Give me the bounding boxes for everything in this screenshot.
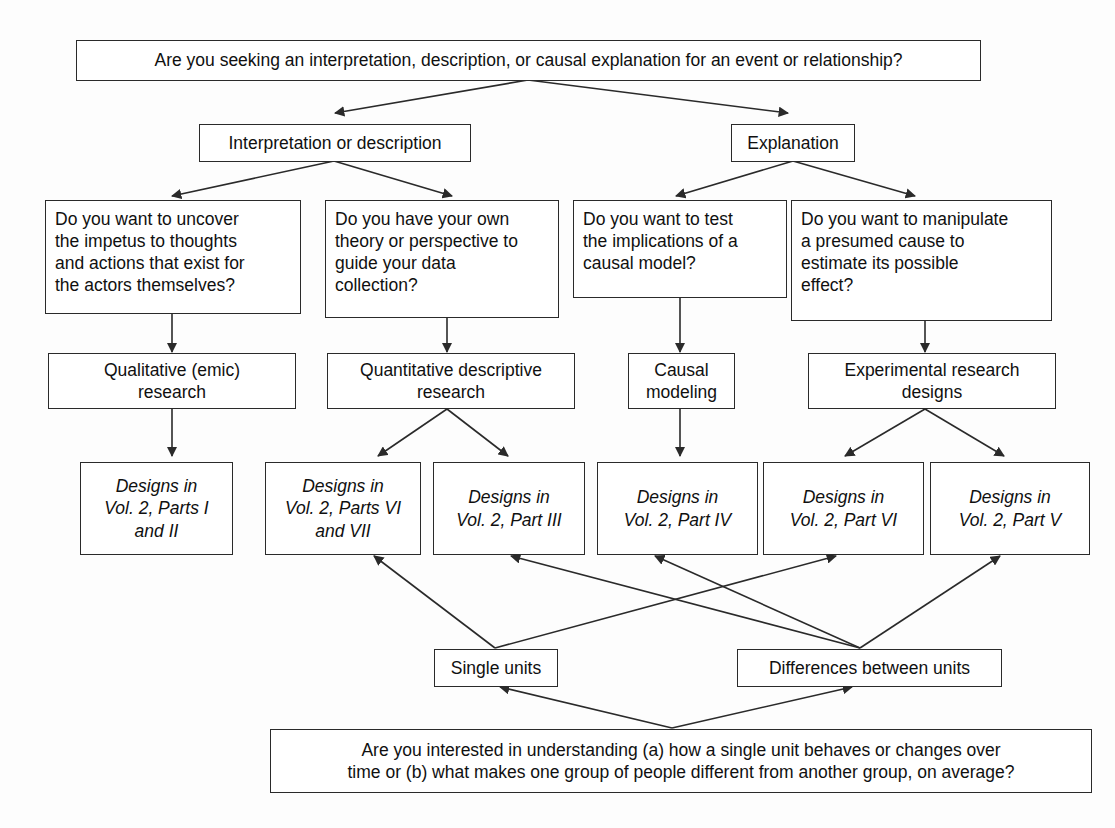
edge-root-to-explanation xyxy=(528,80,788,113)
edge-experimental-to-part-vi xyxy=(845,409,925,456)
node-design-part-iii-label: Designs inVol. 2, Part III xyxy=(440,486,578,530)
node-question-causal-model-label: Do you want to testthe implications of a… xyxy=(583,208,777,274)
node-interpretation-label: Interpretation or description xyxy=(206,132,464,154)
node-root-question-label: Are you seeking an interpretation, descr… xyxy=(83,49,974,71)
node-bottom-question[interactable]: Are you interested in understanding (a) … xyxy=(270,729,1092,793)
node-method-quantitative-label: Quantitative descriptiveresearch xyxy=(334,359,568,403)
node-design-part-vi[interactable]: Designs inVol. 2, Part VI xyxy=(763,462,924,555)
node-method-experimental-label: Experimental researchdesigns xyxy=(815,359,1049,403)
edge-experimental-to-part-v xyxy=(925,409,1004,456)
edge-single-units-to-part-vi xyxy=(495,556,836,648)
node-question-theory[interactable]: Do you have your owntheory or perspectiv… xyxy=(325,200,559,318)
node-design-part-iv[interactable]: Designs inVol. 2, Part IV xyxy=(597,462,758,555)
node-method-qualitative-label: Qualitative (emic)research xyxy=(55,359,289,403)
edge-root-to-interpretation xyxy=(335,80,528,113)
node-method-quantitative[interactable]: Quantitative descriptiveresearch xyxy=(327,353,575,409)
node-interpretation-or-description[interactable]: Interpretation or description xyxy=(199,124,471,162)
node-design-part-iii[interactable]: Designs inVol. 2, Part III xyxy=(433,462,585,555)
node-single-units[interactable]: Single units xyxy=(434,649,558,687)
node-method-experimental[interactable]: Experimental researchdesigns xyxy=(808,353,1056,409)
node-question-theory-label: Do you have your owntheory or perspectiv… xyxy=(335,208,549,296)
edge-quantitative-to-parts-vi-vii xyxy=(378,409,447,456)
node-question-emic-label: Do you want to uncoverthe impetus to tho… xyxy=(55,208,291,296)
edge-explanation-to-manipulate-q xyxy=(793,161,915,196)
edge-differences-to-part-iii xyxy=(511,556,860,648)
node-explanation[interactable]: Explanation xyxy=(731,124,855,162)
node-design-parts-i-ii-label: Designs inVol. 2, Parts Iand II xyxy=(87,475,226,541)
node-method-causal-modeling-label: Causalmodeling xyxy=(635,359,728,403)
edge-differences-to-part-iv xyxy=(655,556,860,648)
edge-quantitative-to-part-iii xyxy=(447,409,508,456)
node-root-question[interactable]: Are you seeking an interpretation, descr… xyxy=(76,40,981,81)
connector-layer xyxy=(0,0,1115,828)
node-question-manipulate-label: Do you want to manipulatea presumed caus… xyxy=(801,208,1042,296)
node-differences-between-units[interactable]: Differences between units xyxy=(737,649,1002,687)
node-question-manipulate[interactable]: Do you want to manipulatea presumed caus… xyxy=(791,200,1052,321)
node-question-causal-model[interactable]: Do you want to testthe implications of a… xyxy=(573,200,787,298)
edge-explanation-to-causal-q xyxy=(676,161,793,196)
node-design-part-iv-label: Designs inVol. 2, Part IV xyxy=(604,486,751,530)
node-differences-between-units-label: Differences between units xyxy=(744,657,995,679)
edge-differences-to-part-v xyxy=(860,556,1000,648)
edge-bottom-question-to-single-units xyxy=(500,687,672,728)
node-explanation-label: Explanation xyxy=(738,132,848,154)
edge-single-units-to-parts-vi-vii xyxy=(374,556,495,648)
edge-interpretation-to-emic-q xyxy=(172,161,334,196)
node-single-units-label: Single units xyxy=(441,657,551,679)
node-design-parts-vi-vii-label: Designs inVol. 2, Parts VIand VII xyxy=(272,475,414,541)
node-design-part-v-label: Designs inVol. 2, Part V xyxy=(937,486,1083,530)
node-design-part-v[interactable]: Designs inVol. 2, Part V xyxy=(930,462,1090,555)
node-design-parts-i-ii[interactable]: Designs inVol. 2, Parts Iand II xyxy=(80,462,233,555)
flowchart-canvas: Are you seeking an interpretation, descr… xyxy=(0,0,1115,828)
node-question-emic[interactable]: Do you want to uncoverthe impetus to tho… xyxy=(45,200,301,314)
node-design-part-vi-label: Designs inVol. 2, Part VI xyxy=(770,486,917,530)
node-method-causal-modeling[interactable]: Causalmodeling xyxy=(628,353,735,409)
node-bottom-question-label: Are you interested in understanding (a) … xyxy=(277,739,1085,783)
node-design-parts-vi-vii[interactable]: Designs inVol. 2, Parts VIand VII xyxy=(265,462,421,555)
edge-bottom-question-to-differences xyxy=(672,687,852,728)
node-method-qualitative[interactable]: Qualitative (emic)research xyxy=(48,353,296,409)
edge-interpretation-to-theory-q xyxy=(334,161,452,196)
